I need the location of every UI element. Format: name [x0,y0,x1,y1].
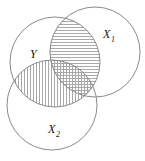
label-x1-subscript: 1 [111,35,115,44]
venn-diagram-canvas: Y X 1 X 2 [0,0,145,161]
label-x2: X [47,122,56,136]
label-x1: X [102,27,111,41]
venn-diagram-figure: Y X 1 X 2 [0,0,145,161]
label-x2-subscript: 2 [56,130,60,139]
